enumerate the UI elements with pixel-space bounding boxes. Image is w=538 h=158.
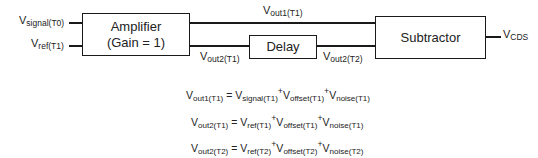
label-v-out2-t1: Vout2(T1) — [200, 50, 239, 64]
label-v-out2-t2: Vout2(T2) — [323, 50, 362, 64]
wire-out1 — [189, 22, 376, 24]
amplifier-label: Amplifier — [111, 19, 162, 35]
wire-out2-t2 — [316, 45, 376, 47]
wire-signal-input — [69, 22, 83, 24]
equation-out2-t2: Vout2(T2) = Vref(T2)+Voffset(T2)+Vnoise(… — [191, 139, 363, 156]
label-v-cds: VCDS — [503, 28, 528, 42]
amplifier-block: Amplifier (Gain = 1) — [82, 13, 190, 56]
wire-ref-input — [69, 45, 83, 47]
amplifier-gain-label: (Gain = 1) — [107, 35, 165, 51]
label-v-signal-t0: Vsignal(T0) — [19, 14, 64, 28]
label-v-ref-t1: Vref(T1) — [31, 37, 64, 51]
equation-out1-t1: Vout1(T1) = Vsignal(T1)+Voffset(T1)+Vnoi… — [186, 86, 370, 103]
subtractor-label: Subtractor — [401, 30, 461, 46]
label-v-out1-t1: Vout1(T1) — [263, 4, 302, 18]
delay-block: Delay — [249, 35, 317, 59]
delay-label: Delay — [266, 39, 299, 55]
equation-out2-t1: Vout2(T1) = Vref(T1)+Voffset(T1)+Vnoise(… — [191, 113, 363, 130]
wire-output — [485, 36, 501, 38]
wire-out2-t1 — [189, 45, 250, 47]
subtractor-block: Subtractor — [375, 16, 486, 59]
